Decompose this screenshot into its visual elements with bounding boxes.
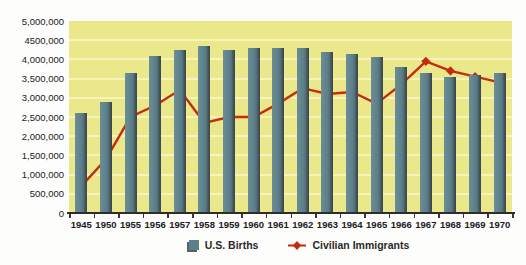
births-bar-swatch-icon — [189, 240, 199, 250]
axis-tick — [266, 214, 268, 218]
bar-1962 — [297, 48, 309, 213]
bar-1966 — [395, 67, 407, 213]
bar-1968 — [444, 77, 456, 213]
y-axis-tick-label: 5,000,000 — [0, 16, 64, 27]
x-axis-tick-label: 1945 — [69, 219, 94, 230]
axis-tick — [463, 214, 465, 218]
x-axis-tick-label: 1950 — [94, 219, 119, 230]
x-axis-tick-label: 1959 — [217, 219, 242, 230]
y-axis-tick-label: 4500,000 — [0, 35, 64, 46]
x-axis-tick-label: 1962 — [291, 219, 316, 230]
bar-1967 — [420, 73, 432, 213]
bar-1969 — [469, 75, 481, 213]
bar-1956 — [149, 56, 161, 213]
y-axis-tick-label: 3,500,000 — [0, 73, 64, 84]
legend: U.S. Births Civilian Immigrants — [0, 237, 526, 253]
legend-label-us-births: U.S. Births — [205, 239, 259, 251]
axis-tick — [487, 214, 489, 218]
bar-1955 — [125, 73, 137, 213]
x-axis-tick-label: 1970 — [487, 219, 512, 230]
legend-item-civilian-immigrants: Civilian Immigrants — [288, 239, 409, 251]
x-axis: 1945195019551956195719581959196019611962… — [69, 219, 512, 232]
axis-tick — [217, 214, 219, 218]
bar-1945 — [75, 113, 87, 213]
bar-1959 — [223, 50, 235, 213]
axis-tick — [315, 214, 317, 218]
axis-tick — [143, 214, 145, 218]
x-axis-tick-label: 1961 — [266, 219, 291, 230]
axis-tick — [192, 214, 194, 218]
y-axis-tick-label: 4,000,000 — [0, 54, 64, 65]
immigrants-line-swatch-icon — [288, 241, 306, 250]
bar-1970 — [494, 73, 506, 213]
chart: 5,000,0004500,0004,000,0003,500,0003,000… — [0, 0, 526, 265]
axis-tick — [118, 214, 120, 218]
x-axis-tick-label: 1963 — [315, 219, 340, 230]
y-axis-tick-label: 1,000,000 — [0, 169, 64, 180]
axis-tick — [94, 214, 96, 218]
x-axis-tick-label: 1966 — [389, 219, 414, 230]
y-axis-tick-label: 2,500,000 — [0, 112, 64, 123]
line-marker-1968 — [446, 66, 455, 75]
axis-tick — [389, 214, 391, 218]
y-axis-tick-label: 0 — [0, 208, 64, 219]
axis-tick — [69, 214, 71, 218]
legend-label-civilian-immigrants: Civilian Immigrants — [312, 239, 409, 251]
x-axis-tick-label: 1960 — [241, 219, 266, 230]
x-axis-tick-label: 1958 — [192, 219, 217, 230]
y-axis-tick-label: 1,500,000 — [0, 150, 64, 161]
axis-tick — [512, 214, 514, 218]
axis-tick — [340, 214, 342, 218]
bar-1965 — [371, 57, 383, 213]
bar-1950 — [100, 102, 112, 213]
legend-item-us-births: U.S. Births — [189, 239, 259, 251]
axis-tick — [291, 214, 293, 218]
bar-1957 — [174, 50, 186, 213]
x-axis-tick-label: 1967 — [414, 219, 439, 230]
axis-tick — [167, 214, 169, 218]
y-axis-tick-label: 3,000,000 — [0, 92, 64, 103]
axis-tick — [438, 214, 440, 218]
bar-1964 — [346, 54, 358, 213]
y-axis-tick-label: 2,000,000 — [0, 131, 64, 142]
bar-1961 — [272, 48, 284, 213]
bar-1958 — [198, 46, 210, 213]
axis-tick — [364, 214, 366, 218]
x-axis-tick-label: 1956 — [143, 219, 168, 230]
y-axis-tick-label: 500,000 — [0, 188, 64, 199]
y-axis: 5,000,0004500,0004,000,0003,500,0003,000… — [0, 21, 64, 213]
x-axis-tick-label: 1955 — [118, 219, 143, 230]
plot-area — [69, 21, 512, 213]
x-axis-tick-label: 1957 — [167, 219, 192, 230]
x-axis-tick-label: 1964 — [340, 219, 365, 230]
axis-tick — [414, 214, 416, 218]
x-axis-tick-label: 1965 — [364, 219, 389, 230]
axis-tick — [241, 214, 243, 218]
x-axis-tick-label: 1968 — [438, 219, 463, 230]
x-axis-tick-label: 1969 — [463, 219, 488, 230]
bar-1963 — [321, 52, 333, 213]
bar-1960 — [248, 48, 260, 213]
